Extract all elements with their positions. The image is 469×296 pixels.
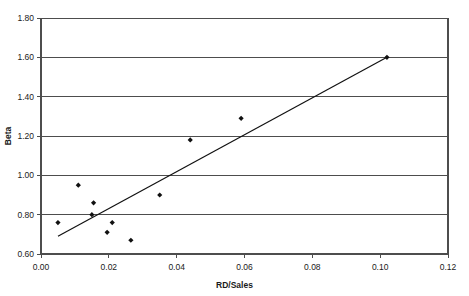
x-tick-labels: 0.000.020.040.060.080.100.12 bbox=[33, 262, 457, 272]
data-point bbox=[157, 192, 162, 197]
trend-line bbox=[58, 57, 387, 236]
x-tick-label: 0.00 bbox=[33, 262, 50, 272]
y-tick-label: 1.00 bbox=[17, 170, 34, 180]
data-point bbox=[239, 116, 244, 121]
chart-canvas: 0.600.801.001.201.401.601.80 0.000.020.0… bbox=[0, 0, 469, 296]
x-tick-label: 0.02 bbox=[101, 262, 118, 272]
y-tick-labels: 0.600.801.001.201.401.601.80 bbox=[17, 13, 34, 259]
data-point bbox=[76, 183, 81, 188]
y-axis-title: Beta bbox=[3, 127, 13, 146]
data-point bbox=[128, 238, 133, 243]
y-tick-label: 0.80 bbox=[17, 210, 34, 220]
x-tickmarks bbox=[41, 254, 448, 258]
trend-line-path bbox=[58, 57, 387, 236]
data-point bbox=[188, 137, 193, 142]
y-tick-label: 1.80 bbox=[17, 13, 34, 23]
data-point bbox=[384, 55, 389, 60]
gridlines bbox=[41, 18, 448, 215]
y-tick-label: 1.60 bbox=[17, 52, 34, 62]
x-tick-label: 0.06 bbox=[236, 262, 253, 272]
y-tick-label: 1.40 bbox=[17, 92, 34, 102]
x-tick-label: 0.04 bbox=[168, 262, 185, 272]
y-tick-label: 1.20 bbox=[17, 131, 34, 141]
x-tick-label: 0.08 bbox=[304, 262, 321, 272]
x-tick-label: 0.12 bbox=[440, 262, 457, 272]
x-tick-label: 0.10 bbox=[372, 262, 389, 272]
y-tick-label: 0.60 bbox=[17, 249, 34, 259]
data-point bbox=[110, 220, 115, 225]
data-point bbox=[55, 220, 60, 225]
x-axis-title: RD/Sales bbox=[216, 280, 253, 290]
scatter-chart: 0.600.801.001.201.401.601.80 0.000.020.0… bbox=[0, 0, 469, 296]
data-point bbox=[91, 200, 96, 205]
data-point bbox=[105, 230, 110, 235]
